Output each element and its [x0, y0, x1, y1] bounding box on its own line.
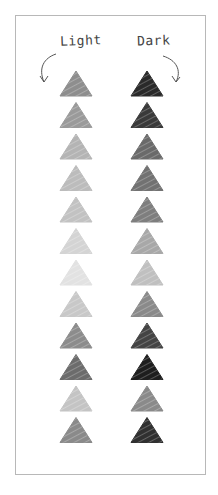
light-triangle-swatch [60, 166, 92, 191]
light-triangle-swatch [60, 197, 92, 222]
dark-triangle-swatch [131, 355, 163, 380]
triangle-hatch [60, 386, 92, 411]
triangle-hatch [131, 292, 163, 317]
dark-triangle-swatch [131, 229, 163, 254]
light-triangle-swatch [60, 71, 92, 96]
triangle-hatch [131, 166, 163, 191]
light-triangle-swatch [60, 323, 92, 348]
curved-arrow-down-right-icon-head [172, 76, 180, 82]
triangle-hatch [60, 260, 92, 285]
dark-triangle-swatch [131, 103, 163, 128]
dark-triangle-swatch [131, 386, 163, 411]
light-triangle-swatch [60, 292, 92, 317]
triangle-hatch [60, 292, 92, 317]
light-triangle-swatch [60, 355, 92, 380]
dark-triangle-swatch [131, 323, 163, 348]
light-triangle-swatch [60, 386, 92, 411]
triangle-hatch [131, 418, 163, 443]
light-triangle-swatch [60, 134, 92, 159]
triangle-hatch [60, 166, 92, 191]
dark-triangle-swatch [131, 292, 163, 317]
curved-arrow-down-left-icon [42, 54, 56, 82]
dark-triangle-swatch [131, 260, 163, 285]
dark-triangle-swatch [131, 166, 163, 191]
triangle-hatch [60, 323, 92, 348]
triangle-hatch [60, 134, 92, 159]
triangle-hatch [60, 418, 92, 443]
triangle-hatch [131, 103, 163, 128]
triangle-hatch [60, 229, 92, 254]
curved-arrow-down-left-icon-head [40, 76, 48, 82]
triangle-hatch [131, 323, 163, 348]
triangle-hatch [131, 134, 163, 159]
triangle-hatch [131, 229, 163, 254]
light-triangle-swatch [60, 260, 92, 285]
curved-arrow-down-right-icon [163, 56, 178, 82]
triangle-hatch [131, 71, 163, 96]
triangle-hatch [60, 355, 92, 380]
dark-triangle-swatch [131, 71, 163, 96]
triangle-hatch [131, 386, 163, 411]
light-triangle-swatch [60, 103, 92, 128]
triangle-hatch [60, 197, 92, 222]
dark-triangle-swatch [131, 418, 163, 443]
triangle-hatch [131, 260, 163, 285]
light-triangle-swatch [60, 418, 92, 443]
triangle-swatch-grid [0, 0, 218, 495]
dark-triangle-swatch [131, 197, 163, 222]
triangle-hatch [131, 197, 163, 222]
triangle-hatch [60, 71, 92, 96]
dark-triangle-swatch [131, 134, 163, 159]
triangle-hatch [60, 103, 92, 128]
triangle-hatch [131, 355, 163, 380]
light-triangle-swatch [60, 229, 92, 254]
